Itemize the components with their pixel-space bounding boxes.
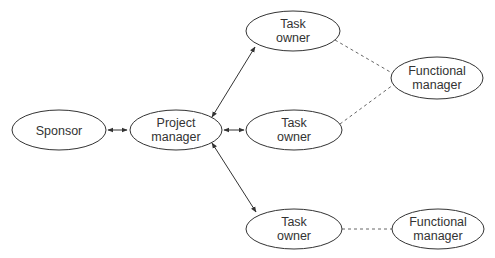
node-label: Sponsor — [36, 124, 83, 138]
node-label-line2: manager — [151, 130, 200, 144]
node-label-line2: owner — [277, 229, 311, 243]
node-label-line1: Task — [281, 116, 307, 130]
node-label-line1: Task — [280, 17, 306, 31]
node-label-line1: Functional — [408, 64, 466, 78]
edge-task-owner-2-functional-manager-1 — [340, 85, 393, 124]
node-task-owner-3: Task owner — [246, 209, 342, 249]
node-label-line1: Project — [157, 116, 196, 130]
node-task-owner-2: Task owner — [246, 110, 342, 150]
node-task-owner-1: Task owner — [246, 11, 340, 51]
node-sponsor: Sponsor — [12, 110, 106, 150]
node-functional-manager-2: Functional manager — [392, 209, 484, 249]
node-label-line2: manager — [413, 229, 462, 243]
edge-project-manager-task-owner-3 — [212, 143, 256, 212]
node-label-line2: owner — [277, 130, 311, 144]
node-project-manager: Project manager — [130, 110, 222, 150]
node-label-line2: owner — [276, 31, 310, 45]
edge-task-owner-1-functional-manager-1 — [335, 40, 392, 73]
node-label-line1: Task — [281, 215, 307, 229]
node-label-line1: Functional — [409, 215, 467, 229]
edge-project-manager-task-owner-1 — [212, 47, 255, 117]
diagram-canvas: Sponsor Project manager Task owner Task … — [0, 0, 495, 258]
node-functional-manager-1: Functional manager — [391, 57, 483, 99]
node-label-line2: manager — [412, 78, 461, 92]
